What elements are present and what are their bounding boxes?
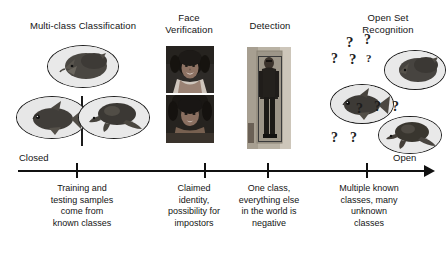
openset-concept-figure: Multi-class Classification Face Verifica…	[0, 0, 448, 258]
unknown-question-mark: ?	[346, 35, 354, 50]
unknown-question-mark: ?	[350, 131, 357, 145]
caption-face-verification: Claimed identity, possibility for impost…	[156, 183, 232, 229]
unknown-question-mark: ?	[356, 102, 363, 116]
class-ellipse-hedgehog	[47, 45, 119, 88]
class-ellipse-hedgehog	[384, 50, 446, 90]
axis-arrowhead-icon	[424, 165, 435, 177]
face-photo-top	[166, 46, 214, 93]
caption-multiclass: Training and testing samples come from k…	[30, 183, 134, 229]
woman-portrait	[166, 95, 214, 143]
turtle-image	[379, 117, 441, 153]
column-title-detection: Detection	[230, 20, 310, 32]
detection-bounding-box	[258, 56, 282, 142]
axis-tick-face-verification	[204, 163, 206, 178]
axis-tick-detection	[267, 163, 269, 178]
column-title-face-verification: Face Verification	[158, 12, 220, 35]
unknown-question-mark: ?	[331, 52, 338, 66]
goldfish-image	[17, 97, 87, 138]
unknown-question-mark: ?	[392, 100, 399, 114]
turtle-image	[79, 97, 149, 138]
axis-tick-multiclass	[76, 163, 78, 178]
column-title-open-set-recognition: Open Set Recognition	[336, 12, 440, 35]
detection-photo	[247, 47, 291, 149]
unknown-question-mark: ?	[366, 53, 372, 64]
caption-open-set-recognition: Multiple known classes, many unknown cla…	[316, 183, 422, 229]
column-title-multiclass: Multi-class Classification	[8, 20, 158, 32]
axis-label-open: Open	[393, 152, 416, 163]
unknown-question-mark: ?	[364, 33, 371, 47]
caption-detection: One class, everything else in the world …	[222, 183, 316, 229]
unknown-question-mark: ?	[349, 52, 357, 67]
class-ellipse-turtle	[378, 116, 442, 154]
class-ellipse-turtle	[78, 96, 150, 139]
unknown-question-mark: ?	[374, 100, 381, 114]
hedgehog-image	[385, 51, 445, 89]
smiling-woman-portrait	[166, 46, 214, 93]
unknown-question-mark: ?	[331, 131, 338, 145]
axis-tick-open-set	[366, 163, 368, 178]
hedgehog-image	[48, 46, 118, 87]
axis-label-closed: Closed	[19, 152, 49, 163]
face-photo-bottom	[166, 95, 214, 143]
